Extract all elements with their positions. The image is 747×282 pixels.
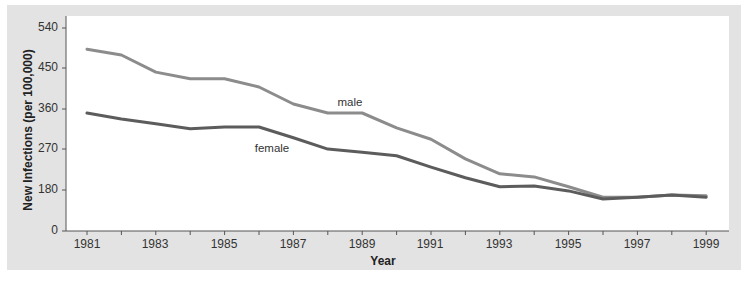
x-tick-label: 1989 [349,237,376,251]
x-tick-label: 1981 [74,237,101,251]
x-tick-label: 1999 [693,237,720,251]
male-series-label: male [338,96,363,108]
series-lines [87,49,706,199]
male-line [87,49,706,197]
female-series-label: female [255,142,290,154]
x-tick-label: 1983 [142,237,169,251]
x-tick-label: 1997 [624,237,651,251]
x-tick-label: 1991 [417,237,444,251]
y-axis-title: New Infections (per 100,000) [21,49,35,210]
y-tick-label: 540 [18,20,58,34]
x-tick-label: 1985 [211,237,238,251]
y-tick-label: 0 [18,223,58,237]
x-tick-label: 1987 [280,237,307,251]
x-axis-title: Year [370,254,395,268]
x-tick-label: 1993 [486,237,513,251]
x-tick-label: 1995 [555,237,582,251]
female-line [87,113,706,199]
